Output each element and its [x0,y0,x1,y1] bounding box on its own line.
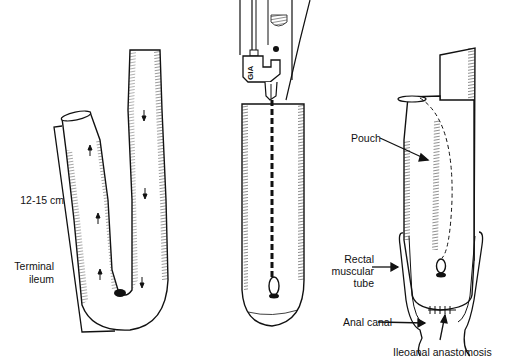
anal-canal-label: Anal canal [343,316,392,328]
rectal-tube-label-line1: Rectal [320,253,374,265]
length-label: 12-15 cm [6,194,64,206]
rectal-tube-label-line2: muscular [320,265,374,277]
ileoanal-anastomosis-label: Ileoanal anastomosis [393,346,492,358]
panel-3-pouch [372,48,483,356]
ileal-pouch-diagram: 12-15 cm Terminal ileum GIA Pouch Rectal… [0,0,511,364]
terminal-ileum-label-line1: Terminal [0,260,54,272]
stapler-gia-label: GIA [246,66,255,80]
rectal-tube-label-line3: tube [320,277,374,289]
illustration-svg [0,0,511,364]
terminal-ileum-label-line2: ileum [0,273,54,285]
panel-2-stapled-limbs [238,0,310,326]
pouch-label: Pouch [351,132,381,144]
panel-1-ileum-loop [54,50,168,332]
